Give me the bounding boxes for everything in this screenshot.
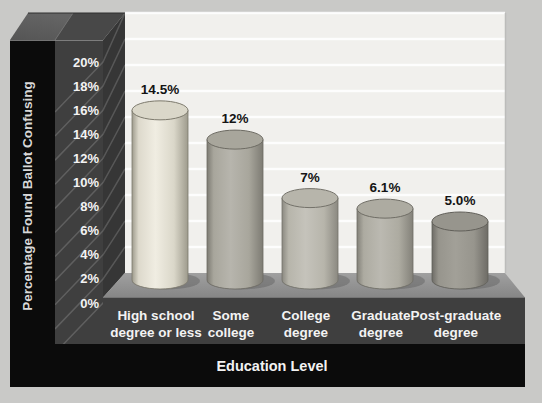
category-label-2: degree xyxy=(284,325,329,340)
value-label-3: 6.1% xyxy=(370,180,401,195)
category-label-3: degree xyxy=(359,325,404,340)
y-tick-label-8: 8% xyxy=(80,199,99,214)
value-label-1: 12% xyxy=(221,111,248,126)
category-label-4: Post-graduate xyxy=(411,308,502,323)
category-label-4: degree xyxy=(434,325,479,340)
cylinder-body-4 xyxy=(432,222,488,290)
cylinder-top-4 xyxy=(432,212,488,231)
value-label-0: 14.5% xyxy=(141,82,179,97)
cylinder-body-1 xyxy=(207,140,263,289)
category-label-0: degree or less xyxy=(110,325,202,340)
category-label-0: High school xyxy=(117,308,194,323)
y-tick-label-14: 14% xyxy=(73,127,99,142)
y-tick-label-16: 16% xyxy=(73,103,99,118)
y-tick-label-10: 10% xyxy=(73,175,99,190)
y-tick-label-20: 20% xyxy=(73,55,99,70)
category-label-1: college xyxy=(208,325,255,340)
cylinder-top-3 xyxy=(357,199,413,218)
category-label-3: Graduate xyxy=(351,308,411,323)
cylinder-top-1 xyxy=(207,130,263,149)
y-tick-label-12: 12% xyxy=(73,151,99,166)
y-tick-label-0: 0% xyxy=(80,296,99,311)
y-tick-label-18: 18% xyxy=(73,79,99,94)
cylinder-body-2 xyxy=(282,198,338,289)
chart-canvas: 14.5%High schooldegree or less12%Somecol… xyxy=(0,0,542,403)
category-label-1: Some xyxy=(213,308,250,323)
y-tick-label-4: 4% xyxy=(80,247,99,262)
y-tick-label-6: 6% xyxy=(80,223,99,238)
cylinder-top-2 xyxy=(282,189,338,208)
category-label-2: College xyxy=(282,308,331,323)
x-axis-title: Education Level xyxy=(216,358,327,374)
y-tick-label-2: 2% xyxy=(80,271,99,286)
cylinder-body-3 xyxy=(357,209,413,289)
cylinder-body-0 xyxy=(132,110,188,289)
value-label-4: 5.0% xyxy=(445,193,476,208)
value-label-2: 7% xyxy=(300,170,320,185)
y-axis-title: Percentage Found Ballot Confusing xyxy=(20,81,35,311)
cylinder-top-0 xyxy=(132,101,188,120)
ballot-confusion-chart-page: 14.5%High schooldegree or less12%Somecol… xyxy=(0,0,542,403)
